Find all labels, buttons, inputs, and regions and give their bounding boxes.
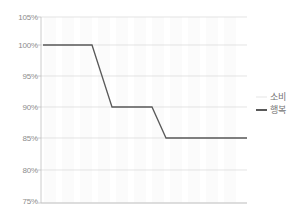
legend-label-sobi: 소비: [270, 90, 286, 103]
legend-item-haengbok[interactable]: 행복: [256, 103, 300, 116]
legend: 소비 행복: [256, 90, 300, 116]
legend-item-sobi[interactable]: 소비: [256, 90, 300, 103]
legend-swatch-icon-sobi: [256, 96, 267, 98]
legend-label-haengbok: 행복: [270, 103, 286, 116]
plot-area: [0, 0, 300, 218]
y-axis-ticks: [38, 17, 41, 203]
legend-swatch-icon-haengbok: [256, 109, 267, 111]
chart-container: 105% 100% 95% 90% 85% 80% 75%: [0, 0, 300, 218]
